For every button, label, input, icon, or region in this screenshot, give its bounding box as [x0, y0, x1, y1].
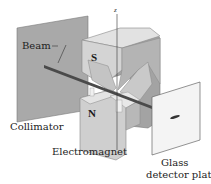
south-pole-label: S — [91, 51, 97, 63]
detector-label-line2: detector plate — [146, 169, 211, 180]
beam-label: Beam — [22, 40, 51, 51]
stern-gerlach-diagram: z S N Beam Collimator Electromagnet Glas… — [0, 0, 211, 184]
north-pole-label: N — [88, 107, 96, 119]
collimator-label: Collimator — [10, 121, 64, 132]
z-axis-label: z — [114, 6, 117, 14]
electromagnet-label: Electromagnet — [52, 146, 127, 157]
detector-label-line1: Glass — [161, 157, 188, 168]
